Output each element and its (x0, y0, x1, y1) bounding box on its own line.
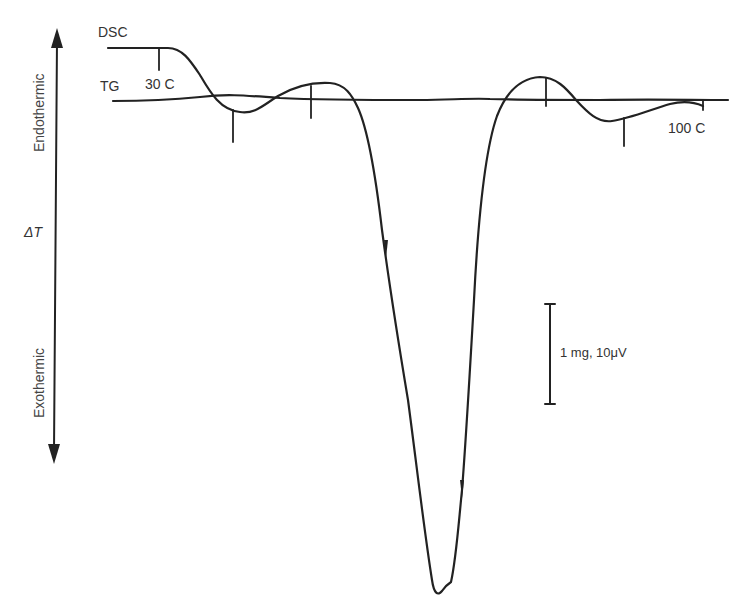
scale-label: 1 mg, 10μV (560, 345, 627, 360)
tg-label: TG (100, 78, 119, 94)
end-temp-label: 100 C (668, 120, 705, 136)
tg-curve (113, 95, 728, 101)
delta-t-label: ΔT (24, 224, 42, 240)
tick-marks (159, 48, 703, 146)
dsc-label: DSC (98, 24, 128, 40)
delta-t-axis (48, 28, 63, 464)
dsc-curve (108, 48, 703, 593)
scale-bar (545, 304, 555, 404)
dsc-tg-thermogram: DSC TG 30 C 100 C ΔT 1 mg, 10μV Endother… (0, 0, 748, 612)
arrow-down-icon (48, 444, 60, 464)
arrow-up-icon (51, 28, 63, 48)
exothermic-label: Exothermic (31, 348, 47, 418)
start-temp-label: 30 C (145, 76, 175, 92)
endothermic-label: Endothermic (31, 73, 47, 152)
